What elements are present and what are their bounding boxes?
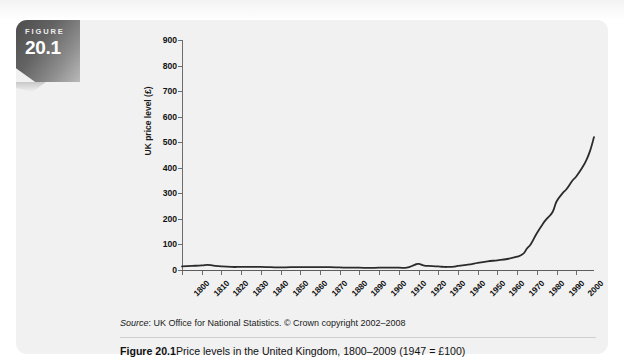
- figure-badge-number: 20.1: [25, 37, 80, 59]
- x-tick-mark-2000: [576, 271, 577, 275]
- figure-badge-word: FIGURE: [25, 27, 80, 37]
- x-tick-label-1850: 1850: [290, 278, 310, 298]
- x-tick-label-1960: 1960: [507, 278, 527, 298]
- y-tick-label-800: 800: [163, 61, 177, 71]
- y-tick-label-400: 400: [163, 163, 177, 173]
- x-tick-mark-1960: [497, 271, 498, 275]
- plot-region: 0100200300400500600700800900 18001810182…: [152, 40, 594, 292]
- x-tick-label-1890: 1890: [369, 278, 389, 298]
- x-tick-label-1810: 1810: [211, 278, 231, 298]
- figure-number-badge: FIGURE 20.1: [16, 20, 80, 82]
- y-axis-tick-labels: 0100200300400500600700800900: [152, 40, 182, 270]
- x-tick-label-1920: 1920: [428, 278, 448, 298]
- x-tick-label-1980: 1980: [546, 278, 566, 298]
- x-tick-mark-1880: [340, 271, 341, 275]
- y-tick-label-600: 600: [163, 112, 177, 122]
- caption-divider: [120, 337, 596, 338]
- series-line-uk-price-level: [182, 40, 594, 271]
- x-tick-label-1840: 1840: [270, 278, 290, 298]
- source-line: Source: UK Office for National Statistic…: [120, 318, 406, 328]
- x-tick-mark-1990: [557, 271, 558, 275]
- x-tick-mark-1930: [438, 271, 439, 275]
- x-tick-label-1820: 1820: [231, 278, 251, 298]
- x-tick-mark-1840: [261, 271, 262, 275]
- x-tick-label-2000: 2000: [586, 278, 606, 298]
- x-tick-mark-1950: [478, 271, 479, 275]
- figure-panel: FIGURE 20.1 UK price level (£) 010020030…: [16, 20, 608, 354]
- x-tick-mark-1890: [359, 271, 360, 275]
- x-tick-mark-1940: [458, 271, 459, 275]
- x-tick-label-1800: 1800: [191, 278, 211, 298]
- x-tick-label-1860: 1860: [310, 278, 330, 298]
- x-tick-label-1990: 1990: [566, 278, 586, 298]
- x-tick-label-1940: 1940: [467, 278, 487, 298]
- chart-area: UK price level (£) 010020030040050060070…: [120, 20, 608, 312]
- y-tick-label-200: 200: [163, 214, 177, 224]
- source-text: : UK Office for National Statistics. © C…: [149, 318, 406, 328]
- y-tick-label-900: 900: [163, 35, 177, 45]
- x-tick-label-1910: 1910: [408, 278, 428, 298]
- caption-label: Figure 20.1: [120, 345, 176, 357]
- x-tick-mark-1850: [281, 271, 282, 275]
- y-tick-label-0: 0: [172, 265, 177, 275]
- x-tick-mark-1920: [419, 271, 420, 275]
- x-tick-label-1930: 1930: [448, 278, 468, 298]
- x-tick-mark-1970: [517, 271, 518, 275]
- x-tick-mark-1860: [300, 271, 301, 275]
- x-tick-mark-1800: [182, 271, 183, 275]
- x-tick-label-1880: 1880: [349, 278, 369, 298]
- y-tick-label-100: 100: [163, 239, 177, 249]
- x-tick-label-1830: 1830: [251, 278, 271, 298]
- x-tick-label-1870: 1870: [329, 278, 349, 298]
- x-tick-mark-1870: [320, 271, 321, 275]
- x-tick-label-1900: 1900: [389, 278, 409, 298]
- page-bleed-top: [0, 0, 624, 20]
- figure-caption: Figure 20.1Price levels in the United Ki…: [120, 345, 465, 357]
- x-tick-mark-1900: [379, 271, 380, 275]
- y-tick-label-300: 300: [163, 188, 177, 198]
- x-tick-mark-1820: [221, 271, 222, 275]
- x-tick-label-1970: 1970: [527, 278, 547, 298]
- x-tick-mark-1980: [537, 271, 538, 275]
- source-label: Source: [120, 318, 149, 328]
- figure-badge-shadow: [16, 82, 46, 92]
- x-tick-mark-1810: [202, 271, 203, 275]
- x-tick-label-1950: 1950: [487, 278, 507, 298]
- y-tick-label-700: 700: [163, 86, 177, 96]
- caption-text: Price levels in the United Kingdom, 1800…: [176, 345, 465, 357]
- x-tick-mark-1830: [241, 271, 242, 275]
- x-tick-mark-1910: [399, 271, 400, 275]
- y-tick-label-500: 500: [163, 137, 177, 147]
